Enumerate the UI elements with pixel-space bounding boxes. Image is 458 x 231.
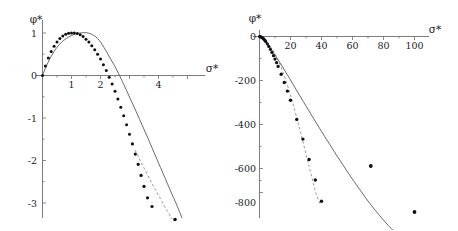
- x-ticks-left: [43, 76, 188, 80]
- figure-container: 0 1 2 4 1 -1 -2 -3 φ* σ*: [0, 0, 458, 230]
- x-tick-label: 40: [315, 40, 327, 51]
- data-points-right: [258, 35, 417, 230]
- x-tick-label: 100: [405, 40, 423, 51]
- data-points-left: [41, 32, 177, 222]
- x-tick-label: 20: [284, 40, 296, 51]
- solid-curve-left: [43, 33, 183, 218]
- x-tick-label: 0: [250, 31, 256, 42]
- dashed-curve-left: [135, 150, 172, 219]
- y-axis-label-left: φ*: [30, 13, 43, 25]
- plot-panel-left: 0 1 2 4 1 -1 -2 -3 φ* σ*: [0, 0, 229, 230]
- x-tick-labels-left: 0 1 2 4: [31, 70, 162, 90]
- y-tick-label: 1: [31, 28, 37, 39]
- y-tick-labels-left: 1 -1 -2 -3: [28, 28, 37, 209]
- y-ticks-left: [43, 33, 47, 203]
- y-ticks-right: [260, 37, 264, 193]
- x-ticks-right: [260, 37, 415, 41]
- y-tick-label: -400: [235, 119, 256, 130]
- plot-right-svg: 0 20 40 60 80 100 -200 -400 -600 -800 φ*…: [229, 0, 458, 230]
- x-tick-label: 2: [97, 79, 103, 90]
- plot-panel-right: 0 20 40 60 80 100 -200 -400 -600 -800 φ*…: [229, 0, 458, 230]
- y-tick-label: -1: [28, 113, 37, 124]
- dashed-curve-right: [260, 37, 321, 205]
- x-axis-label-left: σ*: [206, 62, 219, 74]
- x-axis-label-right: σ*: [429, 23, 442, 35]
- x-tick-label: 0: [31, 70, 37, 81]
- x-tick-label: 4: [155, 79, 161, 90]
- y-tick-label: -800: [235, 197, 256, 208]
- y-tick-label: -600: [235, 163, 256, 174]
- x-tick-label: 1: [68, 79, 74, 90]
- y-tick-label: -3: [28, 198, 37, 209]
- x-tick-label: 60: [346, 40, 358, 51]
- x-tick-label: 80: [377, 40, 389, 51]
- y-tick-label: -2: [28, 155, 37, 166]
- y-axis-label-right: φ*: [249, 12, 262, 24]
- y-tick-label: -200: [235, 75, 256, 86]
- y-tick-labels-right: -200 -400 -600 -800: [235, 75, 256, 208]
- x-tick-labels-right: 0 20 40 60 80 100: [250, 31, 424, 51]
- plot-left-svg: 0 1 2 4 1 -1 -2 -3 φ* σ*: [0, 0, 229, 230]
- solid-curve-right: [260, 37, 400, 231]
